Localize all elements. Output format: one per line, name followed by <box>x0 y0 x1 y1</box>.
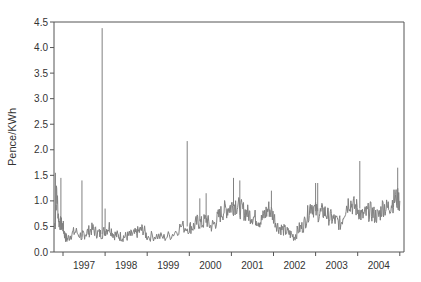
y-tick-label: 3.5 <box>34 68 48 79</box>
y-tick-label: 2.5 <box>34 119 48 130</box>
x-tick-label: 1998 <box>115 260 138 271</box>
price-line <box>55 186 400 242</box>
x-tick-label: 2004 <box>368 260 391 271</box>
y-tick-label: 0.0 <box>34 247 48 258</box>
y-axis-ticks: 0.00.51.01.52.02.53.03.54.04.5 <box>34 17 54 258</box>
y-tick-label: 4.5 <box>34 17 48 28</box>
y-axis-title: Pence/KWh <box>6 108 18 166</box>
plot-frame <box>54 22 404 252</box>
price-series <box>55 28 400 242</box>
line-chart: 0.00.51.01.52.02.53.03.54.04.5 199719981… <box>0 0 421 282</box>
x-tick-label: 1997 <box>73 260 96 271</box>
y-tick-label: 1.5 <box>34 170 48 181</box>
x-tick-label: 1999 <box>157 260 180 271</box>
x-axis-ticks: 19971998199920002001200220032004 <box>63 252 400 271</box>
y-tick-label: 3.0 <box>34 93 48 104</box>
y-tick-label: 2.0 <box>34 144 48 155</box>
y-tick-label: 4.0 <box>34 42 48 53</box>
y-tick-label: 0.5 <box>34 221 48 232</box>
x-tick-label: 2002 <box>283 260 306 271</box>
x-tick-label: 2000 <box>199 260 222 271</box>
x-tick-label: 2003 <box>326 260 349 271</box>
y-tick-label: 1.0 <box>34 195 48 206</box>
x-tick-label: 2001 <box>241 260 264 271</box>
